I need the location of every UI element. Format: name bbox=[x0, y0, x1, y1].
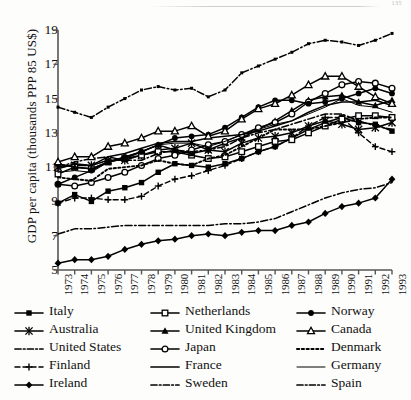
legend-column: NorwayCanadaDenmarkGermanySpain bbox=[296, 302, 411, 398]
x-tick-label: 1973 bbox=[63, 274, 74, 295]
legend-item-italy[interactable]: Italy bbox=[14, 302, 150, 319]
legend-key bbox=[14, 341, 44, 353]
legend-column: ItalyAustraliaUnited StatesFinlandIrelan… bbox=[14, 302, 150, 398]
chart-legend: ItalyAustraliaUnited StatesFinlandIrelan… bbox=[0, 302, 406, 398]
legend-item-sweden[interactable]: Sweden bbox=[150, 374, 296, 391]
legend-key bbox=[150, 359, 180, 371]
legend-key-icon bbox=[296, 361, 326, 373]
x-tick-label: 1978 bbox=[146, 274, 157, 295]
x-tick-label: 1990 bbox=[346, 274, 357, 295]
x-tick-label: 1987 bbox=[296, 274, 307, 295]
legend-item-australia[interactable]: Australia bbox=[14, 320, 150, 337]
legend-label: Japan bbox=[185, 340, 216, 354]
legend-item-ireland[interactable]: Ireland bbox=[14, 374, 150, 391]
legend-column: NetherlandsUnited KingdomJapanFranceSwed… bbox=[150, 302, 296, 398]
x-tick-label: 1981 bbox=[196, 274, 207, 295]
legend-key bbox=[150, 323, 180, 335]
x-tick-label: 1983 bbox=[230, 274, 241, 295]
legend-item-united-kingdom[interactable]: United Kingdom bbox=[150, 320, 296, 337]
x-tick-label: 1985 bbox=[263, 274, 274, 295]
legend-key-icon bbox=[296, 379, 326, 391]
x-tick-label: 1984 bbox=[246, 274, 257, 295]
legend-item-denmark[interactable]: Denmark bbox=[296, 338, 411, 355]
chart-canvas bbox=[0, 8, 406, 308]
legend-item-finland[interactable]: Finland bbox=[14, 356, 150, 373]
x-tick-label: 1975 bbox=[96, 274, 107, 295]
plot-area: GDP per capita (thousands PPP 85 US$) 57… bbox=[0, 8, 406, 298]
x-tick-label: 1976 bbox=[113, 274, 124, 295]
legend-label: Spain bbox=[331, 376, 362, 390]
legend-label: Finland bbox=[49, 358, 90, 372]
legend-key-icon bbox=[14, 361, 44, 373]
legend-label: Italy bbox=[49, 304, 74, 318]
legend-key-icon bbox=[14, 379, 44, 391]
running-head: 135 bbox=[392, 0, 403, 6]
x-tick-label: 1980 bbox=[179, 274, 190, 295]
legend-label: Australia bbox=[49, 322, 99, 336]
legend-item-canada[interactable]: Canada bbox=[296, 320, 411, 337]
legend-item-germany[interactable]: Germany bbox=[296, 356, 411, 373]
legend-label: France bbox=[185, 358, 222, 372]
legend-key bbox=[296, 323, 326, 335]
legend-key-icon bbox=[14, 343, 44, 355]
legend-key-icon bbox=[296, 325, 326, 337]
legend-key bbox=[14, 377, 44, 389]
legend-key bbox=[150, 305, 180, 317]
legend-key-icon bbox=[150, 361, 180, 373]
x-tick-label: 1974 bbox=[79, 274, 90, 295]
legend-key-icon bbox=[150, 325, 180, 337]
legend-key-icon bbox=[150, 307, 180, 319]
legend-key bbox=[296, 377, 326, 389]
legend-key-icon bbox=[150, 379, 180, 391]
legend-label: Germany bbox=[331, 358, 381, 372]
legend-key bbox=[14, 359, 44, 371]
legend-item-japan[interactable]: Japan bbox=[150, 338, 296, 355]
legend-label: Norway bbox=[331, 304, 375, 318]
legend-label: Netherlands bbox=[185, 304, 250, 318]
legend-item-norway[interactable]: Norway bbox=[296, 302, 411, 319]
legend-key bbox=[14, 323, 44, 335]
legend-key bbox=[150, 341, 180, 353]
legend-key bbox=[150, 377, 180, 389]
x-tick-label: 1992 bbox=[380, 274, 391, 295]
legend-key bbox=[296, 341, 326, 353]
legend-label: United States bbox=[49, 340, 121, 354]
legend-label: Denmark bbox=[331, 340, 381, 354]
x-tick-label: 1988 bbox=[313, 274, 324, 295]
legend-label: Ireland bbox=[49, 376, 87, 390]
legend-key-icon bbox=[14, 307, 44, 319]
x-tick-label: 1991 bbox=[363, 274, 374, 295]
legend-key-icon bbox=[296, 343, 326, 355]
legend-item-france[interactable]: France bbox=[150, 356, 296, 373]
legend-key-icon bbox=[296, 307, 326, 319]
x-tick-label: 1989 bbox=[330, 274, 341, 295]
legend-key-icon bbox=[150, 343, 180, 355]
legend-key bbox=[14, 305, 44, 317]
axes bbox=[54, 30, 393, 275]
x-tick-label: 1993 bbox=[397, 274, 408, 295]
legend-item-united-states[interactable]: United States bbox=[14, 338, 150, 355]
x-tick-label: 1977 bbox=[129, 274, 140, 295]
x-tick-label: 1982 bbox=[213, 274, 224, 295]
x-tick-label: 1979 bbox=[163, 274, 174, 295]
x-tick-label: 1986 bbox=[280, 274, 291, 295]
legend-label: Canada bbox=[331, 322, 371, 336]
legend-label: United Kingdom bbox=[185, 322, 276, 336]
legend-key-icon bbox=[14, 325, 44, 337]
legend-key bbox=[296, 305, 326, 317]
legend-label: Sweden bbox=[185, 376, 228, 390]
legend-key bbox=[296, 359, 326, 371]
header-rule bbox=[150, 6, 380, 7]
legend-item-netherlands[interactable]: Netherlands bbox=[150, 302, 296, 319]
legend-item-spain[interactable]: Spain bbox=[296, 374, 411, 391]
